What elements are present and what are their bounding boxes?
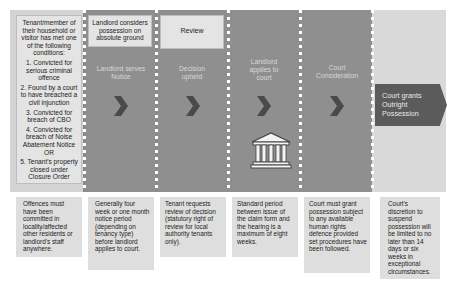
conditions-intro: Tenant/member of their household or visi… — [19, 19, 79, 57]
condition-item: 3. Convicted for breach of CBO — [19, 109, 79, 124]
condition-item: 5. Tenant's property closed under Closur… — [19, 158, 79, 181]
top-label-text: Landlord considers possession on absolut… — [92, 19, 148, 41]
outcome-label: Court grants Outright Possession — [382, 91, 438, 118]
stage-title-court-consideration: Court Consideration — [310, 64, 364, 80]
note-court-consideration: Court must grant possession subject to a… — [304, 197, 370, 273]
top-label-text: Review — [181, 27, 204, 34]
courthouse-icon — [250, 132, 292, 170]
condition-item: 2. Found by a court to have breached a c… — [19, 84, 79, 107]
chevron-right-icon — [186, 96, 200, 116]
chevron-right-icon — [114, 96, 128, 116]
note-notice-period: Generally four week or one month notice … — [88, 197, 154, 270]
divider — [371, 10, 374, 192]
stage-title-decision-upheld: Decision upheld — [168, 65, 216, 81]
chevron-right-icon — [257, 96, 271, 116]
conditions-box: Tenant/member of their household or visi… — [16, 15, 82, 184]
note-review: Tenant requests review of decision (stat… — [160, 197, 226, 257]
divider — [155, 10, 158, 192]
stage-top-label-landlord-considers: Landlord considers possession on absolut… — [88, 15, 152, 47]
note-outcome: Court's discretion to suspend possession… — [380, 197, 440, 279]
stage-top-label-review: Review — [160, 15, 224, 49]
stage-title-landlord-serves-notice: Landlord serves Notice — [96, 65, 146, 81]
divider — [227, 10, 230, 192]
stage-title-landlord-applies: Landlord applies to court — [244, 58, 284, 82]
outcome-arrow: Court grants Outright Possession — [375, 84, 447, 126]
divider — [299, 10, 302, 192]
note-offences: Offences must have been committed in loc… — [16, 197, 82, 257]
chevron-right-icon — [330, 96, 344, 116]
condition-item: 1. Convicted for serious criminal offenc… — [19, 59, 79, 82]
condition-item: 4. Convicted for breach of Noise Abateme… — [19, 126, 79, 156]
note-hearing-period: Standard period between issue of the cla… — [232, 197, 298, 257]
divider — [83, 10, 86, 192]
